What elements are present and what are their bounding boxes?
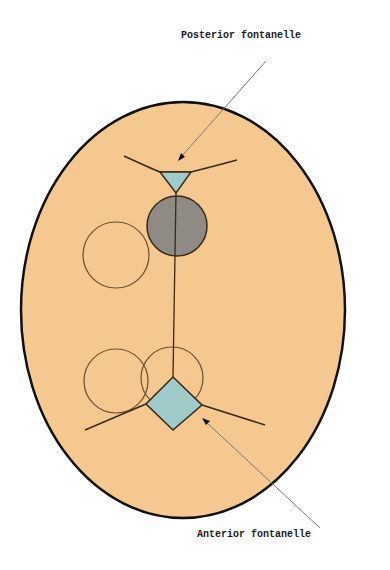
skull-outline bbox=[21, 102, 345, 518]
skull-diagram bbox=[0, 0, 390, 570]
posterior-fontanelle-label: Posterior fontanelle bbox=[181, 30, 301, 41]
anterior-fontanelle-label: Anterior fontanelle bbox=[197, 529, 311, 540]
occipital-circle bbox=[147, 196, 207, 256]
